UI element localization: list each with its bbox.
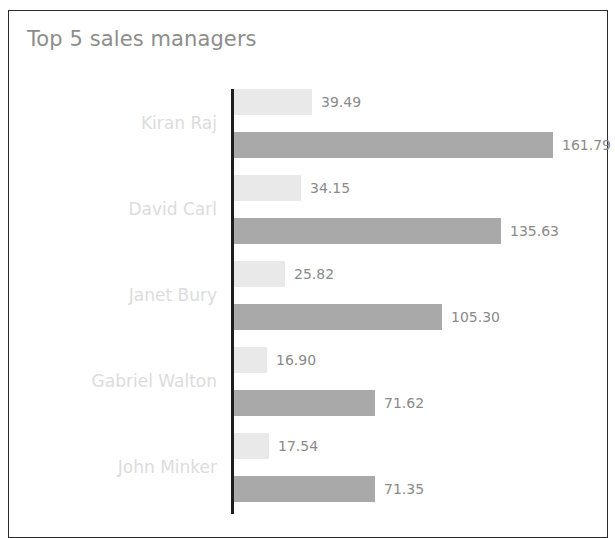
bar-series-1-john-minker[interactable]: [234, 433, 269, 459]
bar-series-1-janet-bury[interactable]: [234, 261, 285, 287]
category-label-david-carl: David Carl: [17, 199, 217, 219]
bar-value-label: 135.63: [510, 223, 559, 239]
bar-row: 25.82: [234, 261, 375, 287]
category-label-janet-bury: Janet Bury: [17, 285, 217, 305]
category-label-kiran-raj: Kiran Raj: [17, 113, 217, 133]
bar-value-label: 105.30: [451, 309, 500, 325]
bar-value-label: 16.90: [276, 352, 316, 368]
bar-series-2-gabriel-walton[interactable]: [234, 390, 375, 416]
bar-series-2-kiran-raj[interactable]: [234, 132, 553, 158]
page-title: Top 5 sales managers: [27, 27, 257, 51]
bar-value-label: 161.79: [562, 137, 611, 153]
bar-chart-plot-area: Kiran Raj39.49161.79David Carl34.15135.6…: [9, 83, 609, 523]
bar-group: Kiran Raj39.49161.79: [9, 89, 609, 158]
bar-group: David Carl34.15135.63: [9, 175, 609, 244]
category-label-gabriel-walton: Gabriel Walton: [17, 371, 217, 391]
bar-row: 34.15: [234, 175, 391, 201]
bar-row: 17.54: [234, 433, 359, 459]
bar-value-label: 17.54: [278, 438, 318, 454]
bar-series-2-john-minker[interactable]: [234, 476, 375, 502]
bar-value-label: 71.62: [384, 395, 424, 411]
bar-row: 71.62: [234, 390, 465, 416]
bar-series-1-gabriel-walton[interactable]: [234, 347, 267, 373]
bar-row: 135.63: [234, 218, 591, 244]
bar-value-label: 71.35: [384, 481, 424, 497]
category-label-john-minker: John Minker: [17, 457, 217, 477]
bar-series-1-kiran-raj[interactable]: [234, 89, 312, 115]
bar-row: 39.49: [234, 89, 402, 115]
chart-panel: Top 5 sales managers Kiran Raj39.49161.7…: [8, 10, 608, 538]
bar-group: Gabriel Walton16.9071.62: [9, 347, 609, 416]
bar-value-label: 34.15: [310, 180, 350, 196]
bar-series-2-david-carl[interactable]: [234, 218, 501, 244]
bar-row: 161.79: [234, 132, 615, 158]
bar-row: 71.35: [234, 476, 465, 502]
bar-value-label: 25.82: [294, 266, 334, 282]
bar-row: 105.30: [234, 304, 532, 330]
bar-series-2-janet-bury[interactable]: [234, 304, 442, 330]
bar-group: John Minker17.5471.35: [9, 433, 609, 502]
bar-row: 16.90: [234, 347, 357, 373]
bar-series-1-david-carl[interactable]: [234, 175, 301, 201]
bar-value-label: 39.49: [321, 94, 361, 110]
bar-group: Janet Bury25.82105.30: [9, 261, 609, 330]
